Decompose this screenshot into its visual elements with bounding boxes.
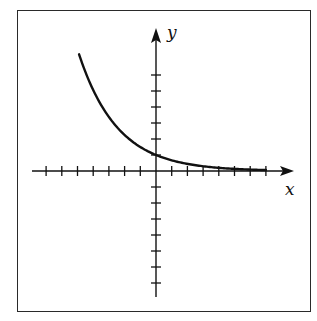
function-curve <box>79 54 266 170</box>
x-axis-label: x <box>285 179 295 199</box>
y-axis-label: y <box>167 22 177 42</box>
coordinate-plane <box>0 0 317 321</box>
